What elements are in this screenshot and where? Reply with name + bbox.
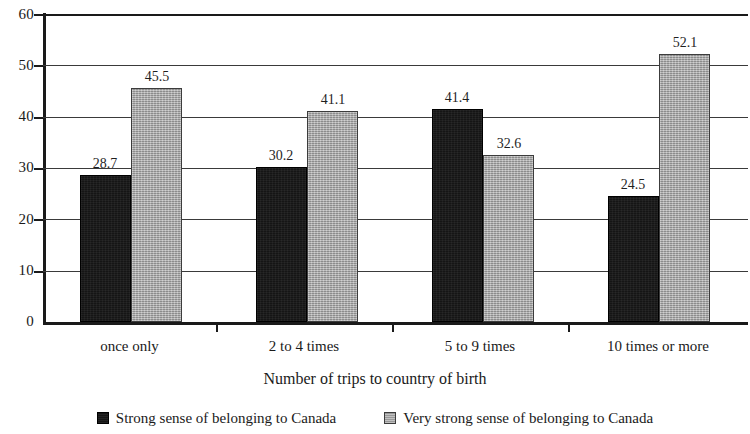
chart-legend: Strong sense of belonging to Canada Very… [0, 406, 750, 430]
legend-label-1: Very strong sense of belonging to Canada [403, 410, 653, 427]
y-tick-label-10: 10 [0, 263, 34, 278]
x-axis-title: Number of trips to country of birth [0, 370, 750, 388]
bar-value-series1-cat2: 32.6 [469, 137, 549, 151]
bar-series0-cat0[interactable] [80, 175, 131, 322]
plot-area: 28.7 45.5 30.2 41.1 41.4 32.6 24.5 52.1 [43, 14, 748, 322]
bar-series1-cat1[interactable] [307, 111, 358, 322]
y-tick-label-40: 40 [0, 109, 34, 124]
bar-chart-figure: 60 50 40 30 20 10 0 28.7 45.5 30.2 41.1 … [0, 0, 750, 434]
bar-series0-cat1[interactable] [256, 167, 307, 322]
y-tick-label-60: 60 [0, 7, 34, 22]
bar-value-series0-cat0: 28.7 [65, 157, 145, 171]
x-category-label-0: once only [43, 338, 216, 355]
x-tick-3 [568, 322, 570, 332]
x-category-label-1: 2 to 4 times [216, 338, 392, 355]
x-axis-line [43, 322, 748, 325]
bar-value-series0-cat2: 41.4 [417, 91, 497, 105]
x-category-label-3: 10 times or more [568, 338, 748, 355]
y-tick-label-20: 20 [0, 212, 34, 227]
bar-value-series1-cat3: 52.1 [645, 36, 725, 50]
gridline-50 [43, 65, 748, 66]
x-tick-2 [392, 322, 394, 332]
legend-swatch-grey-icon [384, 412, 396, 424]
bar-value-series1-cat0: 45.5 [117, 70, 197, 84]
y-tick-label-50: 50 [0, 58, 34, 73]
x-tick-1 [216, 322, 218, 332]
y-tick-label-0: 0 [0, 314, 34, 329]
legend-item-1[interactable]: Very strong sense of belonging to Canada [384, 410, 653, 427]
legend-label-0: Strong sense of belonging to Canada [116, 410, 336, 427]
bar-series1-cat0[interactable] [131, 88, 182, 322]
legend-swatch-black-icon [97, 412, 109, 424]
bar-series1-cat2[interactable] [483, 155, 534, 322]
legend-item-0[interactable]: Strong sense of belonging to Canada [97, 410, 336, 427]
bar-value-series0-cat3: 24.5 [593, 178, 673, 192]
bar-value-series1-cat1: 41.1 [293, 93, 373, 107]
y-tick-label-30: 30 [0, 160, 34, 175]
gridline-60 [43, 14, 748, 16]
bar-value-series0-cat1: 30.2 [241, 149, 321, 163]
x-category-label-2: 5 to 9 times [392, 338, 568, 355]
bar-series0-cat3[interactable] [608, 196, 659, 322]
